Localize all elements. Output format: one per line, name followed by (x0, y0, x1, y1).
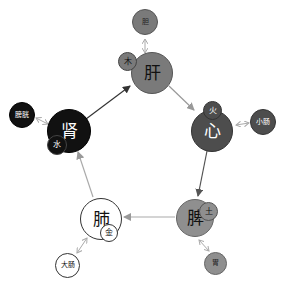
link-kidney-bladder (36, 118, 48, 124)
metal-label: 金 (105, 229, 113, 237)
arrow-lung-to-kidney (78, 152, 93, 197)
node-liver[interactable]: 肝 (131, 52, 173, 94)
node-metal[interactable]: 金 (100, 224, 118, 242)
gallbladder-label: 胆 (142, 19, 149, 26)
liver-label: 肝 (144, 65, 161, 82)
arrow-kidney-to-liver (86, 86, 130, 119)
fire-label: 火 (209, 107, 217, 115)
arrow-liver-to-heart (169, 86, 194, 110)
node-wood[interactable]: 木 (118, 52, 137, 71)
earth-label: 土 (205, 208, 213, 216)
stomach-label: 胃 (212, 260, 219, 267)
node-stomach[interactable]: 胃 (204, 252, 227, 275)
link-heart-small-intestine (236, 123, 249, 125)
heart-label: 心 (204, 123, 221, 140)
arrow-heart-to-spleen (198, 151, 207, 196)
node-small-intestine[interactable]: 小肠 (250, 109, 276, 135)
node-large-intestine[interactable]: 大肠 (55, 253, 80, 278)
node-water[interactable]: 水 (47, 135, 67, 155)
diagram-lines (0, 0, 285, 290)
node-bladder[interactable]: 膀胱 (9, 102, 35, 128)
node-earth[interactable]: 土 (199, 202, 218, 221)
water-label: 水 (53, 141, 61, 149)
link-spleen-stomach (199, 240, 209, 251)
bladder-label: 膀胱 (15, 112, 29, 119)
node-gallbladder[interactable]: 胆 (132, 9, 158, 35)
node-fire[interactable]: 火 (203, 101, 222, 120)
link-lung-large-intestine (77, 238, 87, 253)
wood-label: 木 (124, 58, 132, 66)
small-intestine-label: 小肠 (256, 119, 270, 126)
large-intestine-label: 大肠 (61, 262, 75, 269)
